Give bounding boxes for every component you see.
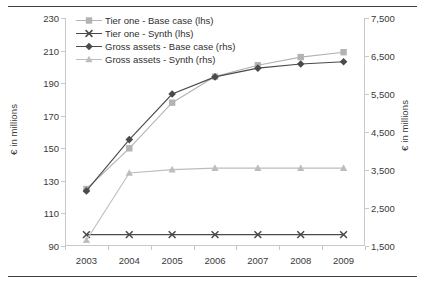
square-marker-icon (340, 49, 346, 55)
legend-item-label: Gross assets - Synth (rhs) (102, 54, 215, 65)
right-tick-label: 3,500 (371, 165, 395, 176)
cross-marker-icon (86, 30, 93, 37)
triangle-marker-icon (85, 56, 92, 63)
right-tick (365, 18, 369, 19)
diamond-marker-icon (76, 40, 102, 53)
diamond-marker-icon (340, 58, 348, 66)
right-tick (365, 94, 369, 95)
series-line (86, 168, 343, 240)
series-4 (83, 164, 347, 243)
series-2 (83, 231, 347, 238)
square-marker-icon (76, 14, 102, 27)
x-tick-label: 2009 (333, 255, 354, 266)
left-tick-label: 210 (43, 45, 59, 56)
right-tick-label: 5,500 (371, 89, 395, 100)
x-tick-label: 2007 (247, 255, 268, 266)
right-tick-label: 2,500 (371, 203, 395, 214)
right-tick (365, 56, 369, 57)
legend-item[interactable]: Tier one - Synth (lhs) (76, 27, 235, 40)
square-marker-icon (169, 99, 175, 105)
x-tick (65, 246, 66, 250)
x-tick (365, 246, 366, 250)
diamond-marker-icon (85, 43, 93, 51)
chart-legend: Tier one - Base case (lhs)Tier one - Syn… (76, 14, 235, 66)
square-marker-icon (86, 17, 92, 23)
series-3 (83, 58, 348, 195)
left-axis-title: € in millions (8, 104, 19, 155)
right-tick (365, 208, 369, 209)
chart-figure: € in millions € in millions 901101301501… (0, 0, 425, 285)
square-marker-icon (126, 145, 132, 151)
left-tick-label: 230 (43, 13, 59, 24)
x-tick-label: 2004 (119, 255, 140, 266)
square-marker-icon (298, 54, 304, 60)
bottom-rule (8, 276, 417, 277)
left-tick-label: 190 (43, 78, 59, 89)
x-tick (322, 246, 323, 250)
legend-item-label: Gross assets - Base case (rhs) (102, 41, 235, 52)
legend-item[interactable]: Gross assets - Synth (rhs) (76, 53, 235, 66)
right-axis-title: € in millions (399, 100, 410, 151)
x-tick-label: 2006 (204, 255, 225, 266)
top-rule (8, 6, 417, 7)
right-tick-label: 7,500 (371, 13, 395, 24)
x-tick-label: 2005 (162, 255, 183, 266)
triangle-marker-icon (76, 53, 102, 66)
legend-item[interactable]: Gross assets - Base case (rhs) (76, 40, 235, 53)
right-tick-label: 1,500 (371, 241, 395, 252)
left-tick-label: 170 (43, 110, 59, 121)
x-tick (151, 246, 152, 250)
cross-marker-icon (76, 27, 102, 40)
x-tick (108, 246, 109, 250)
left-tick-label: 110 (44, 208, 59, 219)
x-tick (279, 246, 280, 250)
x-tick-label: 2008 (290, 255, 311, 266)
left-tick-label: 150 (43, 143, 59, 154)
left-tick-label: 130 (43, 175, 59, 186)
legend-item[interactable]: Tier one - Base case (lhs) (76, 14, 235, 27)
legend-item-label: Tier one - Base case (lhs) (102, 15, 213, 26)
right-tick-label: 6,500 (371, 51, 395, 62)
right-tick-label: 4,500 (371, 127, 395, 138)
diamond-marker-icon (297, 60, 305, 68)
legend-item-label: Tier one - Synth (lhs) (102, 28, 193, 39)
left-tick-label: 90 (48, 241, 59, 252)
x-tick (236, 246, 237, 250)
right-tick (365, 170, 369, 171)
x-tick (194, 246, 195, 250)
series-line (86, 62, 343, 191)
x-tick-label: 2003 (76, 255, 97, 266)
right-tick (365, 132, 369, 133)
